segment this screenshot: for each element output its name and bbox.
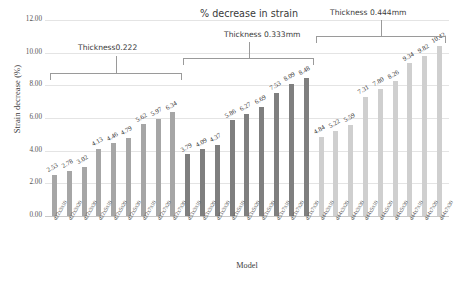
bar-value-label: 5.62 <box>135 112 148 123</box>
bar-value-label: 5.59 <box>343 112 356 123</box>
x-tick-slot: d33x3x10 <box>180 218 195 260</box>
bar-value-label: 6.69 <box>254 94 267 105</box>
bar[interactable] <box>215 145 220 216</box>
bar[interactable] <box>289 84 294 216</box>
bar[interactable] <box>393 81 398 216</box>
bar[interactable] <box>111 143 116 216</box>
x-tick-slot: d44x7x10 <box>403 218 418 260</box>
x-tick-slot: d33x3x20 <box>195 218 210 260</box>
x-tick-slot: d44x5x20 <box>373 218 388 260</box>
bar-slot: 5.22 <box>328 20 343 216</box>
brace-stem-group-3 <box>381 20 382 37</box>
bar-slot: 5.86 <box>225 20 240 216</box>
bar[interactable] <box>407 63 412 216</box>
bar-value-label: 8.26 <box>387 69 400 80</box>
bar-value-label: 6.27 <box>239 101 252 112</box>
group-label-thickness-0444: Thickness 0.444mm <box>330 8 406 17</box>
bar-slot: 5.59 <box>343 20 358 216</box>
bar-value-label: 9.34 <box>402 51 415 62</box>
bar-slot: 10.42 <box>432 20 447 216</box>
bar-slot: 5.97 <box>151 20 166 216</box>
x-tick-slot: d33x7x30 <box>299 218 314 260</box>
x-tick-slot: d22x7x20 <box>151 218 166 260</box>
bar-chart: Strain decrease (%) 0.002.004.006.008.00… <box>0 0 454 282</box>
group-label-thickness-0333: Thickness 0.333mm <box>224 30 300 39</box>
y-tick-label: 2.00 <box>16 179 42 186</box>
bar[interactable] <box>304 78 309 217</box>
bar-value-label: 8.48 <box>298 65 311 76</box>
bar-slot: 6.34 <box>166 20 181 216</box>
bar[interactable] <box>422 56 427 216</box>
bar-value-label: 4.84 <box>313 124 326 135</box>
bar-value-label: 9.82 <box>417 43 430 54</box>
x-tick-slot: d22x5x10 <box>91 218 106 260</box>
bar-slot: 2.53 <box>47 20 62 216</box>
y-tick-label: 6.00 <box>16 114 42 121</box>
bar[interactable] <box>378 89 383 216</box>
brace-group-1 <box>50 73 182 80</box>
y-tick-label: 8.00 <box>16 81 42 88</box>
bar-slot: 9.82 <box>417 20 432 216</box>
x-tick-slot: d22x3x10 <box>47 218 62 260</box>
x-tick-slot: d44x3x30 <box>343 218 358 260</box>
y-axis-ticks: 0.002.004.006.008.0010.0012.00 <box>12 0 42 282</box>
bar[interactable] <box>200 149 205 216</box>
x-tick-slot: d33x7x20 <box>284 218 299 260</box>
x-tick-slot: d22x3x30 <box>77 218 92 260</box>
y-tick-label: 0.00 <box>16 212 42 219</box>
bar-value-label: 4.09 <box>194 137 207 148</box>
bar-value-label: 3.02 <box>76 154 89 165</box>
x-tick-slot: d44x7x30 <box>432 218 447 260</box>
bar[interactable] <box>319 137 324 216</box>
x-tick-slot: d44x5x30 <box>388 218 403 260</box>
bar-value-label: 7.80 <box>372 76 385 87</box>
bar[interactable] <box>363 97 368 216</box>
bar-slot: 8.48 <box>299 20 314 216</box>
x-tick-slot: d44x3x10 <box>314 218 329 260</box>
chart-title: % decrease in strain <box>200 8 298 19</box>
bar-value-label: 4.46 <box>106 131 119 142</box>
y-tick-label: 4.00 <box>16 147 42 154</box>
x-tick-slot: d22x5x30 <box>121 218 136 260</box>
x-tick-slot: d33x5x10 <box>225 218 240 260</box>
bar-slot: 4.37 <box>210 20 225 216</box>
x-axis-ticks: d22x3x10d22x3x20d22x3x30d22x5x10d22x5x20… <box>45 218 449 260</box>
bar-slot: 3.79 <box>180 20 195 216</box>
y-tick-label: 12.00 <box>16 16 42 23</box>
bar-value-label: 3.79 <box>180 142 193 153</box>
bar-slot: 4.09 <box>195 20 210 216</box>
bar-slot: 4.84 <box>314 20 329 216</box>
brace-stem-group-2 <box>249 42 250 59</box>
x-tick-slot: d22x7x10 <box>136 218 151 260</box>
bar-value-label: 4.13 <box>91 136 104 147</box>
x-tick-slot: d44x5x10 <box>358 218 373 260</box>
bar-value-label: 5.86 <box>224 108 237 119</box>
brace-group-3 <box>316 36 446 43</box>
brace-stem-group-1 <box>116 56 117 74</box>
bar[interactable] <box>185 154 190 216</box>
bar-slot: 5.62 <box>136 20 151 216</box>
bar-slot: 2.78 <box>62 20 77 216</box>
bar-slot: 7.31 <box>358 20 373 216</box>
x-tick-slot: d22x3x20 <box>62 218 77 260</box>
bar-value-label: 5.97 <box>150 106 163 117</box>
x-tick-slot: d33x7x10 <box>269 218 284 260</box>
bar-slot: 6.69 <box>254 20 269 216</box>
bar-value-label: 7.31 <box>357 84 370 95</box>
x-tick-slot: d44x7x20 <box>417 218 432 260</box>
bar[interactable] <box>96 149 101 216</box>
bar[interactable] <box>274 93 279 216</box>
bar[interactable] <box>82 167 87 216</box>
bar-slot: 6.27 <box>240 20 255 216</box>
bar[interactable] <box>259 107 264 216</box>
x-tick-slot: d44x3x20 <box>328 218 343 260</box>
bar-value-label: 2.78 <box>61 158 74 169</box>
bar[interactable] <box>437 46 442 216</box>
bar-value-label: 4.37 <box>209 132 222 143</box>
x-tick-slot: d33x5x30 <box>254 218 269 260</box>
x-axis-title: Model <box>45 261 449 270</box>
bar-value-label: 5.22 <box>328 118 341 129</box>
group-label-thickness-0222: Thickness0.222 <box>78 43 137 52</box>
bar-slot: 9.34 <box>403 20 418 216</box>
x-tick-slot: d33x3x30 <box>210 218 225 260</box>
